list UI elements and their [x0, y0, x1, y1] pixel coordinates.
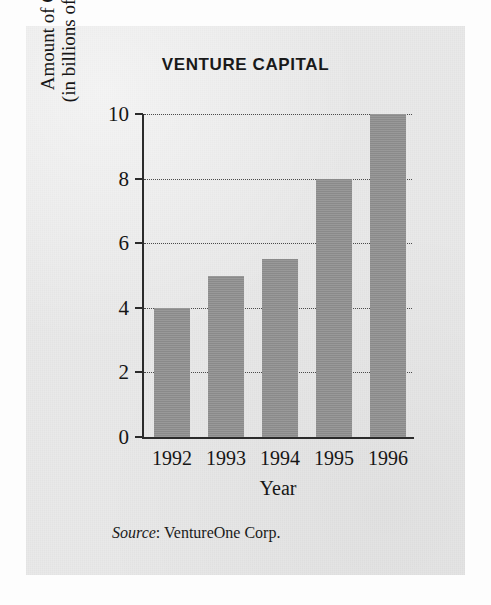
x-axis-line [142, 437, 414, 439]
source-note: Source: VentureOne Corp. [112, 524, 280, 542]
source-text: VentureOne Corp. [164, 524, 280, 541]
x-tick-label-1995: 1995 [314, 447, 354, 470]
source-separator: : [156, 524, 164, 541]
x-tick-label-1994: 1994 [260, 447, 300, 470]
y-axis-title: Amount of Capital (in billions of dollar… [36, 0, 80, 169]
y-tick-label-8: 8 [119, 168, 130, 189]
x-tick-label-1992: 1992 [152, 447, 192, 470]
bar-1993 [208, 276, 244, 438]
bar-1996 [370, 114, 406, 437]
venture-capital-figure: VENTURE CAPITAL 0246810 1992199319941995… [0, 0, 491, 605]
y-tick-10 [135, 113, 143, 115]
y-tick-label-6: 6 [119, 233, 130, 254]
y-tick-8 [135, 178, 143, 180]
y-tick-0 [135, 436, 143, 438]
bar-1992 [154, 308, 190, 437]
y-axis-title-line-1: Amount of Capital [37, 0, 58, 90]
y-tick-label-0: 0 [119, 427, 130, 448]
source-label: Source [112, 524, 156, 541]
y-axis-title-line-2: (in billions of dollars) [58, 0, 79, 102]
y-axis-line [142, 114, 144, 437]
y-tick-2 [135, 371, 143, 373]
bar-1995 [316, 179, 352, 437]
x-axis-title: Year [142, 477, 414, 500]
y-tick-6 [135, 242, 143, 244]
bar-1994 [262, 259, 298, 437]
x-tick-label-1996: 1996 [368, 447, 408, 470]
x-tick-label-1993: 1993 [206, 447, 246, 470]
plot-area: 0246810 19921993199419951996 [142, 114, 412, 437]
y-tick-label-10: 10 [108, 104, 129, 125]
y-tick-label-2: 2 [119, 362, 130, 383]
y-tick-label-4: 4 [119, 297, 130, 318]
y-tick-4 [135, 307, 143, 309]
